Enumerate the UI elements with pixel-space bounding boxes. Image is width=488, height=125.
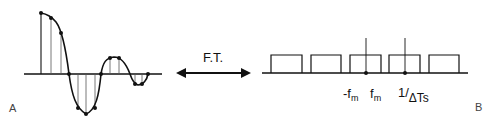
panel-label-a: A (9, 102, 16, 114)
spectrum-rect-5 (429, 55, 459, 73)
sample-lines (41, 13, 142, 114)
transform-label: F.T. (203, 50, 223, 65)
label-fm: fm (370, 86, 381, 101)
panel-label-b: B (475, 101, 482, 113)
double-headed-arrow (176, 68, 251, 78)
frequency-domain-plot (262, 38, 468, 75)
label-inv-sampling: 1/ΔTs (398, 85, 429, 100)
spectrum-rect-1 (271, 55, 302, 73)
spectrum-rect-3 (350, 55, 381, 73)
diagram-canvas (0, 0, 488, 125)
label-inv-sampling-main: 1/ (398, 85, 409, 100)
marker-dot-2 (403, 71, 407, 75)
signal-curve (41, 13, 148, 114)
label-neg-fm-main: -f (343, 86, 351, 101)
spectrum-rect-4 (389, 55, 420, 73)
time-domain-plot (24, 11, 162, 116)
spectrum-rect-2 (311, 55, 341, 73)
label-inv-sampling-sub: ΔTs (409, 91, 429, 105)
marker-dot-1 (364, 71, 368, 75)
label-neg-fm: -fm (343, 86, 358, 101)
label-fm-sub: m (374, 93, 382, 103)
sample-points (39, 11, 150, 116)
label-neg-fm-sub: m (351, 93, 359, 103)
